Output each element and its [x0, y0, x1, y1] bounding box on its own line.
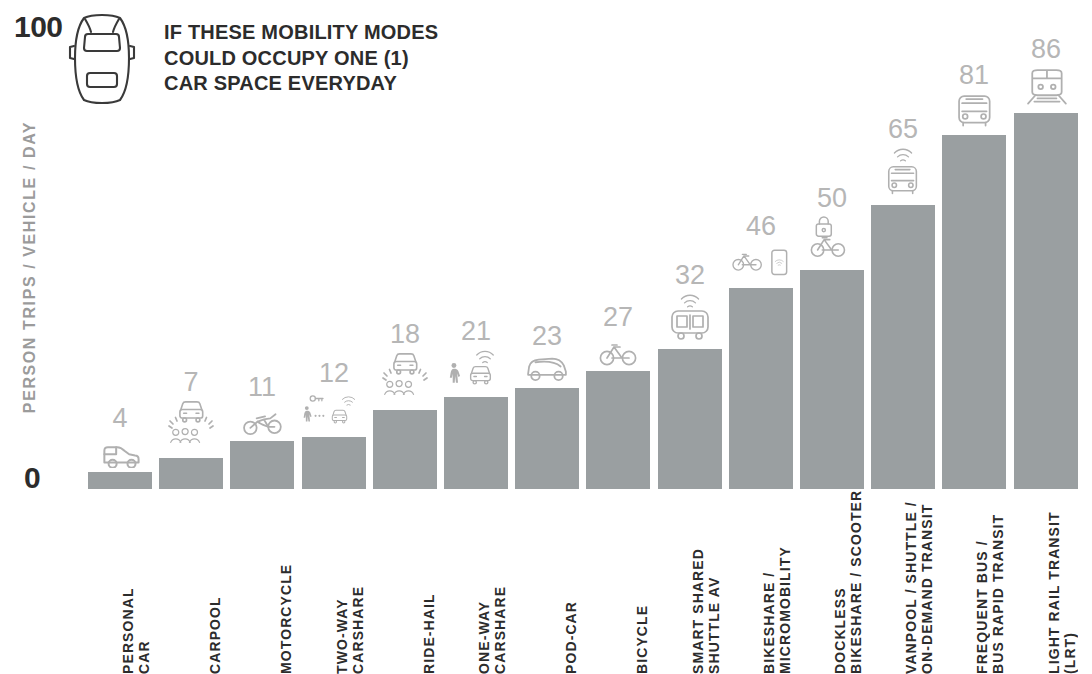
x-axis-label-line: BUS RAPID TRANSIT: [991, 496, 1005, 674]
bar[interactable]: [159, 458, 223, 489]
x-axis-label-line: SMART SHARED: [691, 496, 705, 674]
bar-column: 86: [1014, 0, 1078, 489]
bar[interactable]: [302, 437, 366, 489]
bus-front-icon: [942, 91, 1006, 131]
x-axis-label-line: RIDE-HAIL: [422, 496, 436, 674]
x-axis-label-line: BIKESHARE /: [762, 496, 776, 674]
bar-column: 27: [586, 0, 650, 489]
bar-column: 7: [159, 0, 223, 489]
bar-value-label: 46: [729, 213, 793, 240]
bar-column: 4: [88, 0, 152, 489]
walk-car-wifi-icon: [444, 347, 508, 393]
bar-column: 11: [230, 0, 294, 489]
bar-value-label: 50: [800, 185, 864, 212]
x-axis-label-line: BICYCLE: [635, 496, 649, 674]
bikeshare-dock-wifi-icon: [729, 242, 793, 284]
bar-column: 12: [302, 0, 366, 489]
bar[interactable]: [586, 371, 650, 489]
bar-column: 81: [942, 0, 1006, 489]
bar-value-label: 23: [515, 323, 579, 350]
x-axis-label: BIKESHARE /MICROMOBILITY: [729, 496, 793, 674]
bar-value-label: 65: [871, 116, 935, 143]
x-axis-label-line: VANPOOL / SHUTTLE /: [904, 496, 918, 674]
x-axis-label: TWO-WAYCARSHARE: [302, 496, 366, 674]
x-axis-label-line: TWO-WAY: [335, 496, 349, 674]
x-axis-label-line: MOTORCYCLE: [279, 496, 293, 674]
x-axis-label-line: POD-CAR: [564, 496, 578, 674]
walk-key-car-wifi-icon: [302, 389, 366, 433]
bar-value-label: 86: [1014, 36, 1078, 63]
bar-value-label: 7: [159, 369, 223, 396]
bar-value-label: 27: [586, 304, 650, 331]
x-axis-label-line: FREQUENT BUS /: [975, 496, 989, 674]
bar-value-label: 4: [88, 405, 152, 432]
x-axis-label-line: BIKESHARE / SCOOTER: [849, 496, 863, 674]
x-axis-label: POD-CAR: [515, 496, 579, 674]
chart-canvas: 100 0 PERSON TRIPS / VEHICLE / DAY IF TH…: [0, 0, 1092, 674]
bar[interactable]: [230, 441, 294, 489]
bar-value-label: 32: [658, 262, 722, 289]
bar-column: 32: [658, 0, 722, 489]
x-axis-label: FREQUENT BUS /BUS RAPID TRANSIT: [942, 496, 1006, 674]
bar[interactable]: [800, 270, 864, 489]
bar-value-label: 12: [302, 360, 366, 387]
bars-plot-area: 4 7 11 12: [88, 0, 1084, 489]
x-axis-label: VANPOOL / SHUTTLE /ON-DEMAND TRANSIT: [871, 496, 935, 674]
bar[interactable]: [942, 135, 1006, 489]
bar[interactable]: [515, 388, 579, 489]
x-axis-label: ONE-WAYCARSHARE: [444, 496, 508, 674]
x-axis-label-line: CAR: [137, 496, 151, 674]
bar-value-label: 81: [942, 62, 1006, 89]
x-axis-label-line: ON-DEMAND TRANSIT: [920, 496, 934, 674]
y-axis-title: PERSON TRIPS / VEHICLE / DAY: [21, 57, 39, 477]
x-axis-label: CARPOOL: [159, 496, 223, 674]
bar[interactable]: [871, 205, 935, 489]
x-axis-label-line: CARSHARE: [493, 496, 507, 674]
x-axis-label-line: (LRT): [1063, 496, 1077, 674]
shuttle-bus-wifi-icon: [871, 145, 935, 201]
bar-value-label: 21: [444, 318, 508, 345]
bar[interactable]: [729, 288, 793, 489]
x-axis-label: MOTORCYCLE: [230, 496, 294, 674]
x-axis-label: DOCKLESSBIKESHARE / SCOOTER: [800, 496, 864, 674]
x-axis-label-line: LIGHT RAIL TRANSIT: [1047, 496, 1061, 674]
x-axis-label-line: PERSONAL: [121, 496, 135, 674]
light-rail-train-icon: [1014, 65, 1078, 109]
motorcycle-icon: [230, 403, 294, 437]
x-axis-label: RIDE-HAIL: [373, 496, 437, 674]
y-axis-max-label: 100: [14, 12, 63, 42]
small-car-icon: [88, 434, 152, 468]
bar-column: 50: [800, 0, 864, 489]
bar[interactable]: [88, 472, 152, 489]
x-axis-label: LIGHT RAIL TRANSIT(LRT): [1014, 496, 1078, 674]
x-axis-label-line: ONE-WAY: [477, 496, 491, 674]
bar-column: 46: [729, 0, 793, 489]
bar-column: 18: [373, 0, 437, 489]
bar[interactable]: [444, 397, 508, 489]
pod-car-icon: [515, 352, 579, 384]
bar[interactable]: [373, 410, 437, 489]
x-axis-label: SMART SHAREDSHUTTLE AV: [658, 496, 722, 674]
x-axis-label: PERSONALCAR: [88, 496, 152, 674]
x-axis-label-line: DOCKLESS: [833, 496, 847, 674]
shuttle-av-wifi-icon: [658, 291, 722, 345]
bar-value-label: 11: [230, 374, 294, 401]
ridehail-car-people-icon: [373, 350, 437, 406]
x-axis-label-line: SHUTTLE AV: [707, 496, 721, 674]
x-axis-label-line: CARPOOL: [208, 496, 222, 674]
carpool-people-car-icon: [159, 398, 223, 454]
bar[interactable]: [658, 349, 722, 489]
x-axis-label: BICYCLE: [586, 496, 650, 674]
bar-value-label: 18: [373, 321, 437, 348]
bar[interactable]: [1014, 113, 1078, 489]
x-axis-label-line: CARSHARE: [351, 496, 365, 674]
x-axis-label-line: MICROMOBILITY: [778, 496, 792, 674]
dockless-bike-lock-icon: [800, 214, 864, 266]
bar-column: 65: [871, 0, 935, 489]
x-axis-labels: PERSONALCARCARPOOLMOTORCYCLETWO-WAYCARSH…: [88, 496, 1084, 674]
bar-column: 21: [444, 0, 508, 489]
bar-column: 23: [515, 0, 579, 489]
bicycle-icon: [586, 333, 650, 367]
